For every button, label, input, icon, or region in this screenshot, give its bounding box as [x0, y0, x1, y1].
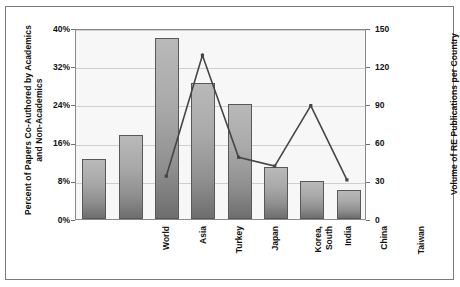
right-tick-mark — [366, 105, 370, 106]
line-marker — [345, 178, 348, 181]
category-label-line: South — [324, 226, 335, 287]
category-label-line: Japan — [270, 226, 281, 287]
right-tick-label: 0 — [375, 215, 405, 226]
line-marker — [309, 104, 312, 107]
line-marker — [201, 54, 204, 57]
right-tick-label: 90 — [375, 100, 405, 111]
right-tick-mark — [366, 67, 370, 68]
chart-figure: Percent of Papers Co-Authored by Academi… — [0, 0, 460, 287]
category-label-line: Asia — [198, 226, 209, 287]
line-marker — [273, 164, 276, 167]
category-label: Asia — [198, 226, 210, 287]
category-label-line: Korea, — [313, 226, 324, 287]
left-tick-mark — [71, 220, 75, 221]
category-label: World — [161, 226, 173, 287]
plot-area — [75, 29, 366, 220]
right-tick-mark — [366, 182, 370, 183]
plot-inner — [76, 30, 365, 219]
line-series — [76, 30, 365, 219]
category-label: Turkey — [234, 226, 246, 287]
category-label: Korea,South — [313, 226, 337, 287]
right-tick-mark — [366, 29, 370, 30]
category-label-line: India — [343, 226, 354, 287]
line-marker — [237, 156, 240, 159]
left-tick-label: 40% — [36, 24, 70, 35]
right-tick-mark — [366, 220, 370, 221]
category-label: Japan — [270, 226, 282, 287]
category-label-line: Turkey — [234, 226, 245, 287]
category-label-line: Taiwan — [416, 226, 427, 287]
category-label: China — [379, 226, 391, 287]
category-label: Taiwan — [416, 226, 428, 287]
left-tick-label: 24% — [36, 100, 70, 111]
right-tick-label: 30 — [375, 176, 405, 187]
left-tick-label: 32% — [36, 62, 70, 73]
right-tick-label: 120 — [375, 62, 405, 73]
line-marker — [165, 175, 168, 178]
category-label: India — [343, 226, 355, 287]
left-tick-label: 16% — [36, 138, 70, 149]
right-tick-label: 60 — [375, 138, 405, 149]
left-tick-label: 8% — [36, 176, 70, 187]
line-path — [166, 55, 347, 180]
left-tick-label: 0% — [36, 215, 70, 226]
right-tick-label: 150 — [375, 24, 405, 35]
right-axis-title: Volume of RE Publications per Country — [449, 19, 460, 209]
right-tick-mark — [366, 144, 370, 145]
category-label-line: China — [379, 226, 390, 287]
category-label-line: World — [161, 226, 172, 287]
